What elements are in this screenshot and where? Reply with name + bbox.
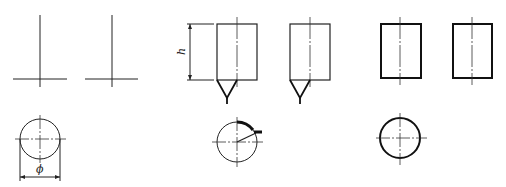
top-view-circle-weld <box>212 117 263 167</box>
front-view-1 <box>13 15 67 87</box>
height-dimension: h <box>175 24 214 80</box>
front-view-1 <box>217 17 257 104</box>
height-label: h <box>175 48 188 55</box>
top-view-circle-diameter: ϕ <box>15 115 66 181</box>
group-bold-outline <box>376 17 492 165</box>
front-view-2 <box>290 17 330 104</box>
group-v-weld: h <box>175 17 330 167</box>
front-view-2 <box>453 17 492 85</box>
top-view-circle <box>376 113 427 165</box>
front-view-1 <box>381 17 421 85</box>
diameter-label: ϕ <box>36 163 44 176</box>
front-view-2 <box>85 15 138 87</box>
group-thin-line: ϕ <box>13 15 138 181</box>
technical-diagram: ϕ h <box>0 0 506 187</box>
